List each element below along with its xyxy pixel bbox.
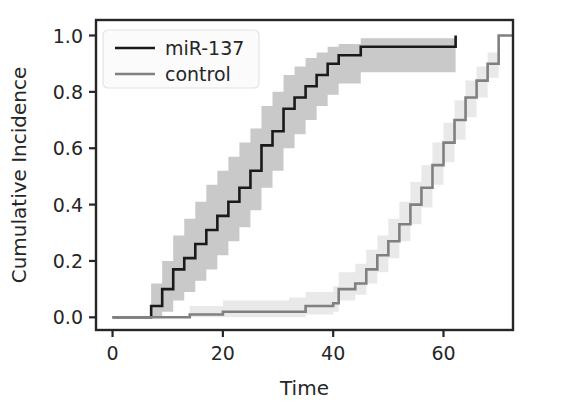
x-tick-label: 40 bbox=[321, 342, 345, 364]
x-tick-label: 60 bbox=[431, 342, 455, 364]
figure-container: 02040600.00.20.40.60.81.0TimeCumulative … bbox=[0, 0, 561, 405]
x-tick-label: 20 bbox=[211, 342, 235, 364]
y-tick-label: 0.0 bbox=[53, 306, 83, 328]
legend-label-mir-137: miR-137 bbox=[165, 37, 244, 59]
chart-background bbox=[0, 0, 561, 405]
x-tick-label: 0 bbox=[107, 342, 119, 364]
y-tick-label: 1.0 bbox=[53, 25, 83, 47]
y-axis-label: Cumulative Incidence bbox=[7, 67, 31, 284]
y-tick-label: 0.6 bbox=[53, 137, 83, 159]
legend: miR-137control bbox=[103, 30, 259, 88]
incidence-chart: 02040600.00.20.40.60.81.0TimeCumulative … bbox=[0, 0, 561, 405]
y-tick-label: 0.2 bbox=[53, 250, 83, 272]
x-axis-label: Time bbox=[279, 376, 329, 400]
legend-label-control: control bbox=[165, 63, 231, 85]
y-tick-label: 0.4 bbox=[53, 194, 83, 216]
y-tick-label: 0.8 bbox=[53, 81, 83, 103]
